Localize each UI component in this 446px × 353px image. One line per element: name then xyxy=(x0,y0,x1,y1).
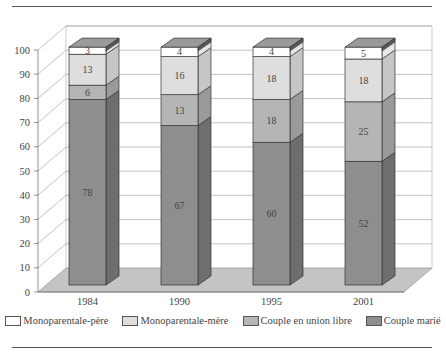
gridline xyxy=(38,244,66,268)
legend-swatch xyxy=(122,316,138,326)
legend-label: Couple en union libre xyxy=(261,315,352,326)
legend-item-couple-union-libre: Couple en union libre xyxy=(243,315,352,326)
bar-value-label: 18 xyxy=(267,115,277,126)
gridline xyxy=(38,74,66,98)
bar-1995: 6018184 xyxy=(253,38,303,285)
y-tick-label: 30 xyxy=(20,214,31,225)
bar-value-label: 60 xyxy=(267,208,277,219)
legend-swatch xyxy=(5,316,21,326)
legend-item-monoparentale-mere: Monoparentale-mère xyxy=(122,315,228,326)
bar-value-label: 5 xyxy=(361,48,366,59)
y-tick-label: 60 xyxy=(20,141,31,152)
bar-value-label: 13 xyxy=(175,105,185,116)
x-tick-label: 1984 xyxy=(77,296,99,307)
y-tick-label: 80 xyxy=(20,93,31,104)
bar-value-label: 52 xyxy=(359,218,369,229)
y-tick-label: 0 xyxy=(25,287,30,298)
x-tick-label: 1990 xyxy=(169,296,190,307)
legend-item-couple-marie: Couple marié xyxy=(366,315,441,326)
gridline xyxy=(38,50,66,74)
bar-value-label: 6 xyxy=(85,87,90,98)
gridline xyxy=(38,171,66,195)
gridline xyxy=(38,99,66,123)
stacked-bar-chart: 0102030405060708090100786133198467131641… xyxy=(0,0,446,353)
x-tick-label: 1995 xyxy=(261,296,282,307)
legend-label: Monoparentale-mère xyxy=(140,315,228,326)
gridline xyxy=(38,220,66,244)
bar-value-label: 16 xyxy=(175,70,185,81)
bar-value-label: 13 xyxy=(83,64,93,75)
y-tick-label: 100 xyxy=(14,45,30,56)
bar-value-label: 25 xyxy=(359,126,369,137)
x-tick-label: 2001 xyxy=(353,296,374,307)
legend-swatch xyxy=(243,316,259,326)
bar-value-label: 78 xyxy=(83,187,93,198)
bar-value-label: 4 xyxy=(269,46,274,57)
bar-2001: 5225185 xyxy=(345,38,395,285)
bar-1984: 786133 xyxy=(69,38,119,285)
legend: Monoparentale-père Monoparentale-mère Co… xyxy=(0,315,446,326)
gridline xyxy=(38,26,66,50)
bar-value-label: 18 xyxy=(359,75,369,86)
y-tick-label: 50 xyxy=(20,166,31,177)
legend-item-monoparentale-pere: Monoparentale-père xyxy=(5,315,108,326)
gridline xyxy=(38,195,66,219)
bar-1990: 6713164 xyxy=(161,38,211,285)
bar-value-label: 18 xyxy=(267,73,277,84)
y-tick-label: 20 xyxy=(20,238,31,249)
bar-value-label: 67 xyxy=(175,200,185,211)
y-tick-label: 70 xyxy=(20,117,31,128)
y-tick-label: 40 xyxy=(20,190,31,201)
y-tick-label: 10 xyxy=(20,262,31,273)
gridline xyxy=(38,123,66,147)
bar-value-label: 4 xyxy=(177,46,182,57)
y-tick-label: 90 xyxy=(20,69,31,80)
legend-label: Monoparentale-père xyxy=(23,315,108,326)
gridline xyxy=(38,147,66,171)
legend-swatch xyxy=(366,316,382,326)
legend-label: Couple marié xyxy=(384,315,441,326)
